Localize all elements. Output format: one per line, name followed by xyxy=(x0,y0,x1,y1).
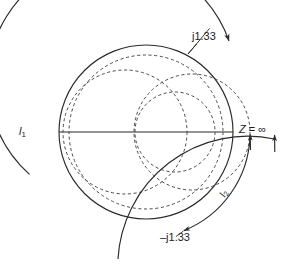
annotation-impedance-value: = ∞ xyxy=(246,123,266,135)
annotation-length-1: l1 xyxy=(19,126,26,139)
annotation-j133-text: j1.33 xyxy=(192,30,216,42)
annotation-length-1-subscript: 1 xyxy=(21,130,25,139)
annotation-negative-j133-text: –j1.33 xyxy=(160,231,190,243)
annotation-impedance-symbol: Z xyxy=(239,123,246,135)
annotation-negative-j133: –j1.33 xyxy=(160,232,190,243)
smith-chart-figure: j1.33 –j1.33 l1 l2 Z = ∞ xyxy=(0,0,286,268)
outer-arc-l2-inner xyxy=(184,137,250,231)
annotation-j133: j1.33 xyxy=(192,31,216,42)
leader-line-j133-b xyxy=(188,44,197,54)
outer-arc-l2-outer xyxy=(118,136,275,259)
annotation-impedance-infinite: Z = ∞ xyxy=(239,124,266,135)
outer-arc-l1 xyxy=(0,0,229,174)
